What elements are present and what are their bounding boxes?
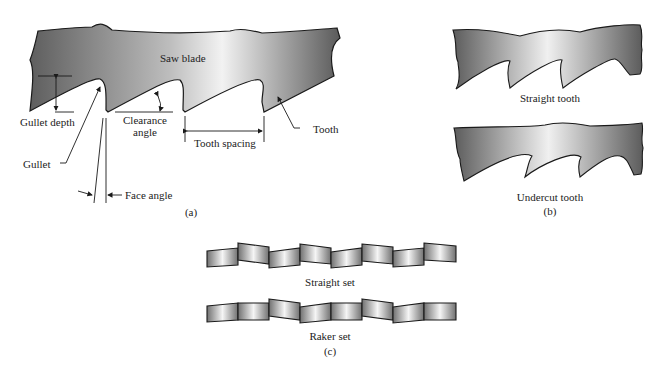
label-clearance-angle-line1: Clearance [121, 114, 169, 126]
caption-c: (c) [315, 345, 345, 357]
label-tooth-spacing: Tooth spacing [194, 137, 256, 149]
panel-c-raker-set [207, 299, 456, 323]
label-raker-set: Raker set [280, 330, 380, 342]
panel-a-blade [30, 24, 340, 112]
label-straight-set: Straight set [280, 276, 380, 288]
panel-b-straight-tooth [453, 25, 642, 89]
label-saw-blade: Saw blade [160, 52, 206, 64]
label-tooth: Tooth [313, 123, 339, 135]
panel-a-annotations [38, 76, 300, 203]
caption-a: (a) [176, 206, 206, 218]
panel-b-undercut-tooth [454, 123, 643, 181]
label-clearance-angle: Clearance angle [121, 114, 169, 138]
caption-b: (b) [535, 205, 565, 217]
label-straight-tooth: Straight tooth [500, 92, 600, 104]
label-undercut-tooth: Undercut tooth [500, 191, 600, 203]
label-gullet-depth: Gullet depth [20, 116, 75, 128]
label-face-angle: Face angle [125, 189, 172, 201]
saw-blade-diagram [0, 0, 662, 371]
label-clearance-angle-line2: angle [121, 126, 169, 138]
panel-c-straight-set [207, 243, 456, 268]
label-gullet: Gullet [23, 158, 51, 170]
